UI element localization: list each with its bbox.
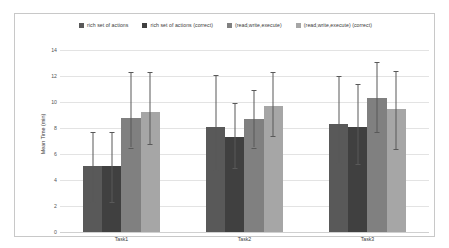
error-bar-cap [109, 202, 114, 203]
bars [206, 35, 282, 232]
legend-label: (read,write,execute) [235, 22, 282, 29]
error-bar [234, 103, 235, 168]
error-bar-cap [394, 71, 399, 72]
bar-slot [329, 35, 348, 232]
error-bar-cap [355, 84, 360, 85]
error-bar-cap [336, 76, 341, 77]
y-tick-label: 8 [54, 125, 57, 131]
legend-label: rich set of actions (correct) [150, 22, 213, 29]
error-bar-cap [394, 149, 399, 150]
bar-slot [225, 35, 244, 232]
x-axis-line [60, 232, 429, 233]
legend-item-rich-set-of-actions[interactable]: rich set of actions [79, 22, 128, 29]
y-tick-label: 10 [51, 99, 57, 105]
error-bar-cap [148, 144, 153, 145]
bar-slot [367, 35, 386, 232]
y-axis-label: Mean Time (min) [40, 113, 46, 153]
legend-item-read-write-execute[interactable]: (read,write,execute) [227, 22, 282, 29]
error-bar [215, 75, 216, 170]
bar-slot [264, 35, 283, 232]
bar-slot [102, 35, 121, 232]
square-marker-icon [142, 23, 147, 28]
error-bar-cap [148, 72, 153, 73]
error-bar-cap [252, 90, 257, 91]
bar-group: Task1 [83, 35, 159, 232]
error-bar-cap [375, 62, 380, 63]
error-bar [92, 132, 93, 202]
error-bar [273, 72, 274, 136]
x-tick-label: Task1 [83, 236, 159, 242]
square-marker-icon [227, 23, 232, 28]
chart-legend: rich set of actions rich set of actions … [15, 18, 436, 32]
x-tick-label: Task2 [206, 236, 282, 242]
y-tick-label: 12 [51, 73, 57, 79]
error-bar [150, 72, 151, 144]
error-bar-cap [90, 202, 95, 203]
error-bar-cap [213, 75, 218, 76]
error-bar-cap [375, 132, 380, 133]
error-bar-cap [355, 164, 360, 165]
error-bar-cap [271, 72, 276, 73]
error-bar-cap [271, 136, 276, 137]
legend-item-read-write-execute-correct[interactable]: (read,write,execute) (correct) [296, 22, 372, 29]
plot-area: Mean Time (min) 02468101214 Task1Task2Ta… [51, 35, 429, 232]
error-bar-cap [109, 132, 114, 133]
square-marker-icon [79, 23, 84, 28]
error-bar [357, 84, 358, 165]
y-tick-label: 4 [54, 177, 57, 183]
error-bar [131, 72, 132, 147]
bar-group: Task2 [206, 35, 282, 232]
error-bar-cap [252, 148, 257, 149]
error-bar [254, 90, 255, 147]
bar-group: Task3 [329, 35, 405, 232]
bar-slot [348, 35, 367, 232]
bar-slot [387, 35, 406, 232]
y-tick-label: 2 [54, 203, 57, 209]
bar-slot [141, 35, 160, 232]
bar-slot [206, 35, 225, 232]
x-tick-label: Task3 [329, 236, 405, 242]
bars [83, 35, 159, 232]
y-tick-label: 0 [54, 229, 57, 235]
bar-slot [244, 35, 263, 232]
legend-item-rich-set-of-actions-correct[interactable]: rich set of actions (correct) [142, 22, 213, 29]
square-marker-icon [296, 23, 301, 28]
error-bar [377, 62, 378, 132]
error-bar-cap [90, 132, 95, 133]
y-tick-label: 14 [51, 47, 57, 53]
y-tick-label: 6 [54, 151, 57, 157]
error-bar [396, 71, 397, 149]
error-bar-cap [129, 148, 134, 149]
bars [329, 35, 405, 232]
bar-groups: Task1Task2Task3 [60, 35, 429, 232]
bar-slot [121, 35, 140, 232]
error-bar-cap [213, 170, 218, 171]
error-bar-cap [129, 72, 134, 73]
legend-label: rich set of actions [87, 22, 128, 29]
error-bar-cap [232, 168, 237, 169]
error-bar [338, 76, 339, 163]
error-bar [111, 132, 112, 202]
error-bar-cap [336, 163, 341, 164]
error-bar-cap [232, 103, 237, 104]
bar-slot [83, 35, 102, 232]
legend-label: (read,write,execute) (correct) [304, 22, 372, 29]
chart-frame: rich set of actions rich set of actions … [14, 13, 435, 237]
chart-screenshot: rich set of actions rich set of actions … [0, 0, 449, 248]
